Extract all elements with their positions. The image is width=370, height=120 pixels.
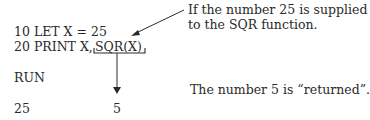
input-arrow-icon xyxy=(131,10,184,36)
return-arrow-icon xyxy=(113,53,121,94)
bracket-icon xyxy=(94,48,145,53)
